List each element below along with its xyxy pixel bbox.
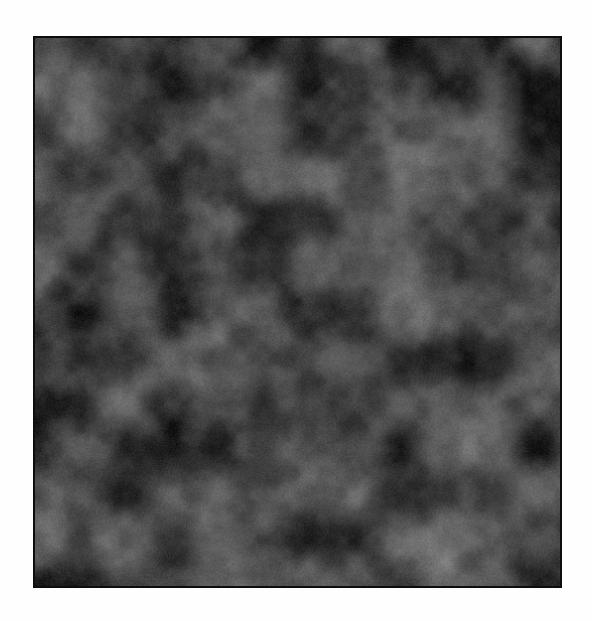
page-speckle — [208, 598, 211, 603]
page-speckle — [320, 601, 322, 607]
noise-texture-frame — [33, 36, 562, 588]
page-speckle — [150, 600, 152, 604]
figure-root — [0, 0, 592, 621]
noise-texture-canvas — [35, 38, 560, 586]
page-speckle — [370, 599, 374, 603]
